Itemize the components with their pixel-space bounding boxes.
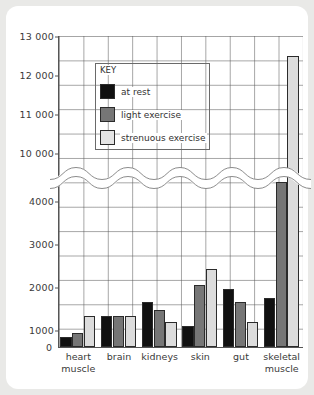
bar-brain-strenuous-exercise bbox=[125, 316, 136, 347]
bar-brain-at-rest bbox=[101, 316, 112, 347]
y-tick-10000: 10 000 bbox=[20, 148, 59, 159]
bar-skin-strenuous-exercise bbox=[206, 269, 217, 347]
bar-group bbox=[223, 36, 258, 347]
bar-group bbox=[60, 36, 95, 347]
y-tick-11000: 11 000 bbox=[20, 109, 59, 120]
legend-swatch-at-rest bbox=[100, 84, 115, 99]
y-tick-1000: 1000 bbox=[29, 325, 59, 336]
y-tick-12000: 12 000 bbox=[20, 70, 59, 81]
bar-heart-muscle-at-rest bbox=[60, 337, 71, 347]
legend-item-at-rest: at rest bbox=[100, 84, 151, 99]
legend-swatch-light-exercise bbox=[100, 107, 115, 122]
bar-skeletal-muscle-light-exercise bbox=[276, 182, 287, 347]
chart-legend: KEY at rest light exercise strenuous exe… bbox=[95, 63, 210, 150]
bar-brain-light-exercise bbox=[113, 316, 124, 347]
bar-skin-at-rest bbox=[182, 326, 193, 347]
legend-label-strenuous-exercise: strenuous exercise bbox=[120, 133, 207, 143]
bar-kidneys-light-exercise bbox=[154, 310, 165, 347]
y-tick-4000: 4000 bbox=[29, 196, 59, 207]
bar-heart-muscle-light-exercise bbox=[72, 333, 83, 347]
bar-kidneys-at-rest bbox=[142, 302, 153, 347]
bar-skeletal-muscle-strenuous-exercise bbox=[287, 56, 298, 348]
legend-item-light-exercise: light exercise bbox=[100, 107, 182, 122]
bar-group bbox=[264, 36, 299, 347]
bar-gut-light-exercise bbox=[235, 302, 246, 347]
bar-kidneys-strenuous-exercise bbox=[165, 322, 176, 347]
y-tick-13000: 13 000 bbox=[20, 31, 59, 42]
bar-skin-light-exercise bbox=[194, 285, 205, 347]
legend-label-at-rest: at rest bbox=[120, 87, 151, 97]
bar-gut-at-rest bbox=[223, 289, 234, 347]
x-label-skeletal-muscle: skeletal muscle bbox=[255, 351, 308, 374]
y-tick-3000: 3000 bbox=[29, 239, 59, 250]
chart-figure: 13 000 12 000 11 000 10 000 4000 3000 20… bbox=[6, 6, 308, 389]
bar-heart-muscle-strenuous-exercise bbox=[84, 316, 95, 347]
chart-card: 13 000 12 000 11 000 10 000 4000 3000 20… bbox=[6, 6, 308, 389]
legend-swatch-strenuous-exercise bbox=[100, 130, 115, 145]
legend-label-light-exercise: light exercise bbox=[120, 110, 182, 120]
bar-gut-strenuous-exercise bbox=[247, 322, 258, 347]
y-tick-2000: 2000 bbox=[29, 282, 59, 293]
legend-title: KEY bbox=[99, 65, 117, 75]
legend-item-strenuous-exercise: strenuous exercise bbox=[100, 130, 207, 145]
bar-skeletal-muscle-at-rest bbox=[264, 298, 275, 348]
